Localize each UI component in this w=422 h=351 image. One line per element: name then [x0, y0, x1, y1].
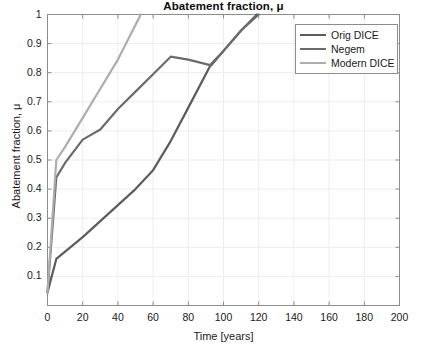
- x-tick-label: 40: [103, 311, 133, 323]
- data-line-modern-dice: [48, 15, 141, 293]
- legend-item-label: Orig DICE: [331, 29, 379, 41]
- legend-line-swatch: [300, 48, 326, 50]
- y-tick-label: 0.2: [8, 240, 42, 252]
- x-tick-label: 200: [385, 311, 415, 323]
- x-tick-label: 140: [279, 311, 309, 323]
- x-tick-label: 120: [244, 311, 274, 323]
- x-tick-label: 60: [138, 311, 168, 323]
- x-tick-label: 20: [68, 311, 98, 323]
- y-tick-label: 0.4: [8, 182, 42, 194]
- data-line-orig-dice: [48, 15, 257, 293]
- y-tick-label: 0.6: [8, 124, 42, 136]
- y-tick-label: 0.9: [8, 37, 42, 49]
- y-tick-label: 0.7: [8, 95, 42, 107]
- y-tick-label: 0.3: [8, 211, 42, 223]
- x-tick-label: 160: [314, 311, 344, 323]
- legend-item-negem[interactable]: Negem: [300, 42, 392, 56]
- y-tick-label: 0.5: [8, 153, 42, 165]
- x-tick-label: 80: [173, 311, 203, 323]
- y-tick-label: 0.1: [8, 269, 42, 281]
- chart-legend[interactable]: Orig DICENegemModern DICE: [295, 24, 398, 74]
- x-tick-label: 100: [209, 311, 239, 323]
- legend-item-label: Modern DICE: [331, 57, 395, 69]
- x-tick-label: 180: [349, 311, 379, 323]
- legend-line-swatch: [300, 34, 326, 36]
- x-tick-label: 0: [33, 311, 63, 323]
- figure-canvas: Abatement fraction, μ Abatement fraction…: [0, 0, 422, 351]
- y-tick-label: 0.8: [8, 66, 42, 78]
- legend-line-swatch: [300, 62, 326, 64]
- legend-item-orig-dice[interactable]: Orig DICE: [300, 28, 392, 42]
- legend-item-label: Negem: [331, 43, 365, 55]
- legend-item-modern-dice[interactable]: Modern DICE: [300, 56, 392, 70]
- y-tick-label: 1: [8, 8, 42, 20]
